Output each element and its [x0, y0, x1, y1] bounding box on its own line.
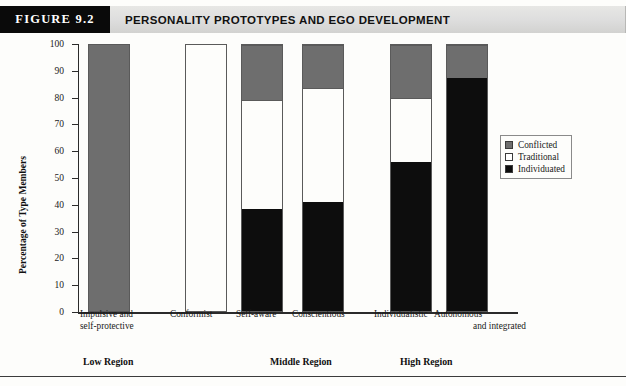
y-tick-0: 0	[72, 312, 78, 313]
figure-title: PERSONALITY PROTOTYPES AND EGO DEVELOPME…	[125, 14, 450, 26]
legend-label: Traditional	[518, 152, 559, 162]
region-label-high-region: High Region	[400, 356, 453, 367]
x-label-line: self-protective	[80, 321, 175, 333]
y-tick-30: 30	[72, 232, 78, 233]
y-tick-label-50: 50	[55, 173, 65, 183]
y-tick-50: 50	[72, 178, 78, 179]
y-tick-90: 90	[72, 71, 78, 72]
x-label-5: Autonomousand integrated	[434, 309, 526, 332]
y-tick-label-60: 60	[55, 146, 65, 156]
figure-header: FIGURE 9.2 PERSONALITY PROTOTYPES AND EG…	[0, 6, 626, 33]
bar-segment-individuated	[447, 78, 487, 311]
bar-autonomous-and-integrated[interactable]	[446, 44, 488, 312]
plot-axes: 0102030405060708090100	[78, 44, 518, 312]
legend-label: Individuated	[518, 164, 565, 174]
y-axis-line	[78, 44, 79, 312]
bar-segment-traditional	[303, 88, 343, 202]
region-label-low-region: Low Region	[83, 356, 133, 367]
bar-segment-individuated	[391, 162, 431, 311]
y-tick-label-70: 70	[55, 119, 65, 129]
y-tick-label-100: 100	[50, 39, 64, 49]
y-tick-label-90: 90	[55, 66, 65, 76]
y-tick-70: 70	[72, 124, 78, 125]
bar-segment-conflicted	[89, 45, 129, 311]
y-tick-80: 80	[72, 98, 78, 99]
y-tick-label-10: 10	[55, 280, 65, 290]
bar-conformist[interactable]	[185, 44, 227, 312]
legend-swatch-individuated-icon	[505, 165, 513, 173]
legend-label: Conflicted	[518, 140, 557, 150]
bar-segment-conflicted	[391, 45, 431, 98]
y-tick-20: 20	[72, 258, 78, 259]
legend-item-individuated[interactable]: Individuated	[505, 163, 565, 175]
y-axis-label: Percentage of Type Members	[16, 80, 30, 350]
x-label-line: and integrated	[434, 321, 526, 333]
legend-swatch-conflicted-icon	[505, 141, 513, 149]
bar-segment-conflicted	[303, 45, 343, 88]
figure-title-bar: PERSONALITY PROTOTYPES AND EGO DEVELOPME…	[110, 6, 626, 33]
y-tick-label-30: 30	[55, 227, 65, 237]
bar-individualistic[interactable]	[390, 44, 432, 312]
x-label-line: Self-aware	[236, 309, 298, 321]
bar-segment-conflicted	[242, 45, 282, 100]
y-tick-label-20: 20	[55, 253, 65, 263]
y-tick-10: 10	[72, 285, 78, 286]
bar-self-aware[interactable]	[241, 44, 283, 312]
x-label-line: Autonomous	[434, 309, 526, 321]
bar-segment-traditional	[186, 45, 226, 311]
bar-segment-traditional	[391, 98, 431, 162]
legend-swatch-traditional-icon	[505, 153, 513, 161]
y-tick-40: 40	[72, 205, 78, 206]
region-label-middle-region: Middle Region	[270, 356, 332, 367]
y-tick-label-80: 80	[55, 93, 65, 103]
x-label-2: Self-aware	[236, 309, 298, 321]
chart-area: Percentage of Type Members 0102030405060…	[0, 36, 626, 386]
y-tick-label-0: 0	[59, 307, 64, 317]
bar-conscientious[interactable]	[302, 44, 344, 312]
bar-impulsive-and-self-protective[interactable]	[88, 44, 130, 312]
figure-page: FIGURE 9.2 PERSONALITY PROTOTYPES AND EG…	[0, 0, 626, 386]
bottom-rule	[0, 376, 626, 377]
bar-segment-traditional	[242, 100, 282, 209]
y-tick-100: 100	[72, 44, 78, 45]
bar-segment-individuated	[242, 209, 282, 311]
x-label-0: Impulsive andself-protective	[80, 309, 175, 332]
x-label-line: Conscientious	[292, 309, 378, 321]
bar-segment-conflicted	[447, 45, 487, 78]
figure-number-tag: FIGURE 9.2	[0, 6, 110, 33]
legend-item-traditional[interactable]: Traditional	[505, 151, 565, 163]
bar-segment-individuated	[303, 202, 343, 311]
legend-item-conflicted[interactable]: Conflicted	[505, 139, 565, 151]
x-label-3: Conscientious	[292, 309, 378, 321]
x-label-line: Impulsive and	[80, 309, 175, 321]
y-tick-label-40: 40	[55, 200, 65, 210]
chart-legend: ConflictedTraditionalIndividuated	[500, 135, 572, 179]
y-tick-60: 60	[72, 151, 78, 152]
